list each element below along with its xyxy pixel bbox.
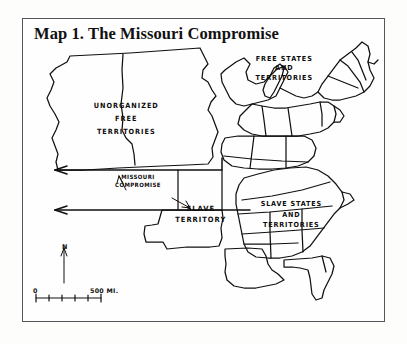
figure-missouri-compromise-map: Map 1. The Missouri Compromise <box>0 0 407 344</box>
label-missouri-compromise: MISSOURI COMPROMISE <box>115 174 161 190</box>
mid-atlantic-internal-1 <box>288 108 292 136</box>
region-ohio-valley <box>221 136 316 169</box>
new-england-internal-3 <box>328 76 358 88</box>
label-line: FREE STATES <box>256 55 314 64</box>
label-line: TERRITORIES <box>256 74 314 83</box>
missouri-compromise-line-north <box>55 158 222 174</box>
mid-atlantic-internal-3 <box>262 106 266 136</box>
label-slave-territory: SLAVE TERRITORY <box>175 203 226 226</box>
region-louisiana <box>225 248 284 288</box>
ohio-valley-internal-3 <box>224 156 308 162</box>
figure-caption <box>0 332 407 344</box>
label-line: COMPROMISE <box>115 182 161 190</box>
florida-internal <box>322 256 326 272</box>
label-line: MISSOURI <box>115 174 161 182</box>
label-unorganized-free-territories: UNORGANIZED FREE TERRITORIES <box>94 99 159 138</box>
label-line: UNORGANIZED <box>94 99 159 112</box>
map-drawing <box>22 18 385 322</box>
label-line: AND <box>261 210 322 221</box>
label-line: SLAVE <box>175 203 226 214</box>
southeast-internal-1 <box>242 182 330 200</box>
compass-rose <box>61 248 67 283</box>
new-england-internal-2 <box>352 52 366 80</box>
new-england-coast-hook <box>368 60 378 64</box>
scale-bar-min-label: 0 <box>33 287 37 294</box>
label-free-states-and-territories: FREE STATES AND TERRITORIES <box>256 55 314 83</box>
compass-north-label: N <box>62 243 67 251</box>
label-slave-states-and-territories: SLAVE STATES AND TERRITORIES <box>261 199 322 231</box>
label-line: TERRITORIES <box>261 220 322 231</box>
region-northeast <box>318 42 374 100</box>
scale-bar <box>36 294 101 302</box>
label-line: FREE <box>94 112 159 125</box>
label-line: TERRITORIES <box>94 125 159 138</box>
scale-bar-max-label: 500 MI. <box>90 287 118 294</box>
mid-atlantic-internal-2 <box>320 102 322 126</box>
label-line: SLAVE STATES <box>261 199 322 210</box>
lake-erie-shore <box>280 88 318 98</box>
label-line: TERRITORY <box>175 214 226 225</box>
region-florida <box>284 256 334 300</box>
ohio-valley-internal-1 <box>250 136 254 168</box>
label-line: AND <box>256 64 314 73</box>
